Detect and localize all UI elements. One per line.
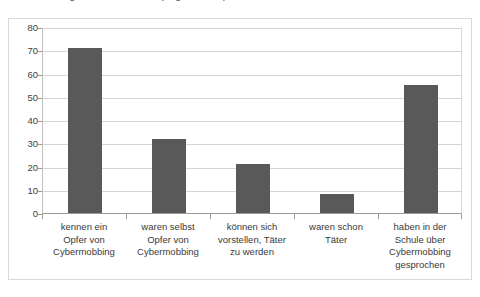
- bar[interactable]: [68, 48, 102, 213]
- y-tick-label: 80: [12, 23, 38, 33]
- y-tick-mark: [38, 144, 42, 145]
- bar-slot: [211, 28, 295, 213]
- y-tick-label: 0: [12, 209, 38, 219]
- bar[interactable]: [320, 194, 354, 213]
- bar[interactable]: [236, 164, 270, 213]
- chart-title: Kinder oder Jugendliche im Internet (Ang…: [8, 0, 472, 4]
- x-tick-mark: [42, 214, 43, 219]
- y-tick-label: 50: [12, 93, 38, 103]
- bars-layer: [43, 28, 461, 213]
- x-tick-mark: [378, 214, 379, 219]
- x-tick-label: haben in der Schule über Cybermobbing ge…: [378, 221, 462, 277]
- x-axis-ticks: [42, 214, 462, 220]
- y-tick-label: 40: [12, 116, 38, 126]
- bar-chart: Kinder oder Jugendliche im Internet (Ang…: [0, 0, 480, 297]
- bar[interactable]: [152, 139, 186, 213]
- y-tick-mark: [38, 214, 42, 215]
- bar-slot: [379, 28, 463, 213]
- y-tick-label: 70: [12, 46, 38, 56]
- bar[interactable]: [404, 85, 438, 213]
- bar-slot: [43, 28, 127, 213]
- x-tick-mark: [294, 214, 295, 219]
- x-tick-label: können sich vorstellen, Täter zu werden: [210, 221, 294, 277]
- y-tick-mark: [38, 51, 42, 52]
- x-tick-label: kennen ein Opfer von Cybermobbing: [42, 221, 126, 277]
- x-tick-mark: [461, 214, 462, 219]
- x-tick-label: waren selbst Opfer von Cybermobbing: [126, 221, 210, 277]
- bar-slot: [295, 28, 379, 213]
- y-tick-label: 20: [12, 163, 38, 173]
- y-tick-label: 30: [12, 139, 38, 149]
- y-tick-label: 60: [12, 70, 38, 80]
- y-tick-mark: [38, 121, 42, 122]
- y-tick-mark: [38, 168, 42, 169]
- x-axis-labels: kennen ein Opfer von Cybermobbingwaren s…: [42, 221, 462, 277]
- y-tick-mark: [38, 98, 42, 99]
- x-tick-mark: [210, 214, 211, 219]
- bar-slot: [127, 28, 211, 213]
- y-tick-mark: [38, 28, 42, 29]
- x-tick-label: waren schon Täter: [294, 221, 378, 277]
- y-tick-mark: [38, 191, 42, 192]
- y-tick-mark: [38, 75, 42, 76]
- y-tick-label: 10: [12, 186, 38, 196]
- x-tick-mark: [126, 214, 127, 219]
- y-axis: 80706050403020100: [8, 28, 38, 214]
- plot-area: [42, 28, 462, 214]
